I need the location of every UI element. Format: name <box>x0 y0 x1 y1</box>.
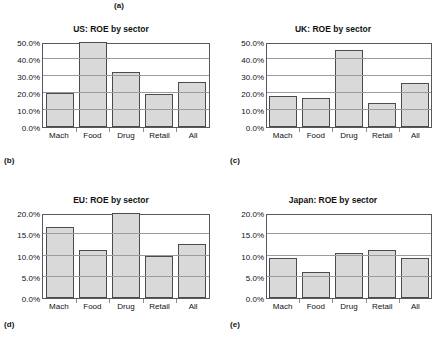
x-tick-label: Drug <box>109 302 143 311</box>
y-tick-label: 10.0% <box>224 252 264 261</box>
y-tick-label: 40.0% <box>224 56 264 65</box>
chart-title-eu: EU: ROE by sector <box>0 195 222 205</box>
chart-title-uk: UK: ROE by sector <box>222 24 444 34</box>
gridline <box>43 233 209 234</box>
y-tick-label: 30.0% <box>0 73 40 82</box>
bar-all <box>401 258 429 298</box>
bar-mach <box>269 258 297 298</box>
y-tick-label: 20.0% <box>224 210 264 219</box>
y-tick-label: 50.0% <box>224 39 264 48</box>
y-tick-label: 30.0% <box>224 73 264 82</box>
gridline <box>43 109 209 110</box>
x-tick-label: Drug <box>332 302 365 311</box>
figure-roe-by-sector: (a) (b) (c) (d) (e) US: ROE by sector 0.… <box>0 0 444 342</box>
bar-series-japan <box>267 215 431 298</box>
gridline <box>267 255 431 256</box>
x-tick-label: All <box>176 302 210 311</box>
bar-retail <box>368 250 396 298</box>
y-axis-us: 0.0%10.0%20.0%30.0%40.0%50.0% <box>0 43 40 128</box>
gridline <box>267 109 431 110</box>
x-tick-label: Retail <box>366 302 399 311</box>
plot-area-uk <box>266 43 432 128</box>
x-tick-label: Retail <box>143 131 177 140</box>
y-tick-label: 10.0% <box>0 107 40 116</box>
bar-series-us <box>43 44 209 127</box>
gridline <box>43 255 209 256</box>
bar-drug <box>112 72 140 127</box>
x-tick-label: All <box>399 302 432 311</box>
bar-series-uk <box>267 44 431 127</box>
y-tick-label: 15.0% <box>224 231 264 240</box>
x-tick-label: Retail <box>143 302 177 311</box>
y-tick-label: 10.0% <box>0 252 40 261</box>
x-tick-label: Food <box>299 302 332 311</box>
bar-drug <box>335 50 363 127</box>
chart-panel-japan: Japan: ROE by sector 0.0%5.0%10.0%15.0%2… <box>222 171 444 342</box>
x-axis-uk: MachFoodDrugRetailAll <box>266 131 432 140</box>
gridline <box>267 92 431 93</box>
gridline <box>267 276 431 277</box>
y-tick-label: 50.0% <box>0 39 40 48</box>
bar-all <box>178 244 206 298</box>
gridline <box>43 58 209 59</box>
bar-series-eu <box>43 215 209 298</box>
y-tick-label: 5.0% <box>224 273 264 282</box>
bar-retail <box>145 94 173 127</box>
bar-food <box>79 42 107 127</box>
x-tick-label: Food <box>299 131 332 140</box>
x-tick-label: Mach <box>42 131 76 140</box>
chart-panel-eu: EU: ROE by sector 0.0%5.0%10.0%15.0%20.0… <box>0 171 222 342</box>
x-tick-label: Drug <box>332 131 365 140</box>
bar-all <box>178 82 206 127</box>
y-axis-japan: 0.0%5.0%10.0%15.0%20.0% <box>222 214 264 299</box>
bar-retail <box>145 256 173 299</box>
x-tick-label: Mach <box>266 131 299 140</box>
bar-mach <box>46 227 74 298</box>
y-tick-label: 15.0% <box>0 231 40 240</box>
x-axis-japan: MachFoodDrugRetailAll <box>266 302 432 311</box>
y-tick-label: 0.0% <box>224 295 264 304</box>
bar-food <box>79 250 107 298</box>
y-tick-label: 5.0% <box>0 273 40 282</box>
bar-mach <box>269 96 297 127</box>
x-tick-label: Mach <box>266 302 299 311</box>
chart-panel-uk: UK: ROE by sector 0.0%10.0%20.0%30.0%40.… <box>222 0 444 171</box>
x-tick-label: Mach <box>42 302 76 311</box>
plot-area-eu <box>42 214 210 299</box>
plot-area-japan <box>266 214 432 299</box>
bar-mach <box>46 93 74 127</box>
x-tick-label: Food <box>76 302 110 311</box>
chart-title-us: US: ROE by sector <box>0 24 222 34</box>
y-tick-label: 0.0% <box>224 124 264 133</box>
x-tick-label: All <box>176 131 210 140</box>
x-tick-label: Food <box>76 131 110 140</box>
gridline <box>267 75 431 76</box>
y-axis-uk: 0.0%10.0%20.0%30.0%40.0%50.0% <box>222 43 264 128</box>
y-tick-label: 20.0% <box>0 90 40 99</box>
x-axis-eu: MachFoodDrugRetailAll <box>42 302 210 311</box>
bar-food <box>302 98 330 127</box>
y-tick-label: 20.0% <box>0 210 40 219</box>
y-tick-label: 0.0% <box>0 295 40 304</box>
y-axis-eu: 0.0%5.0%10.0%15.0%20.0% <box>0 214 40 299</box>
bar-all <box>401 83 429 127</box>
bar-retail <box>368 103 396 127</box>
gridline <box>43 276 209 277</box>
chart-panel-us: US: ROE by sector 0.0%10.0%20.0%30.0%40.… <box>0 0 222 171</box>
bar-drug <box>112 213 140 298</box>
x-tick-label: All <box>399 131 432 140</box>
gridline <box>43 75 209 76</box>
gridline <box>267 233 431 234</box>
x-tick-label: Retail <box>366 131 399 140</box>
gridline <box>267 58 431 59</box>
y-tick-label: 10.0% <box>224 107 264 116</box>
plot-area-us <box>42 43 210 128</box>
x-tick-label: Drug <box>109 131 143 140</box>
y-tick-label: 0.0% <box>0 124 40 133</box>
chart-title-japan: Japan: ROE by sector <box>222 195 444 205</box>
gridline <box>43 92 209 93</box>
y-tick-label: 40.0% <box>0 56 40 65</box>
x-axis-us: MachFoodDrugRetailAll <box>42 131 210 140</box>
y-tick-label: 20.0% <box>224 90 264 99</box>
